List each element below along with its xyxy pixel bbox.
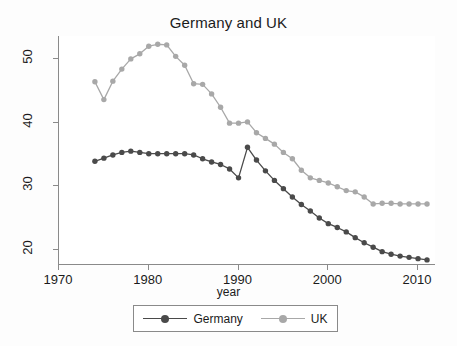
plot-area xyxy=(58,36,435,265)
data-point xyxy=(209,91,214,96)
data-point xyxy=(281,150,286,155)
data-point xyxy=(254,130,259,135)
y-tick-mark xyxy=(53,122,58,123)
data-point xyxy=(326,180,331,185)
data-point xyxy=(182,63,187,68)
data-point xyxy=(415,201,420,206)
data-point xyxy=(137,51,142,56)
data-point xyxy=(335,184,340,189)
data-point xyxy=(200,156,205,161)
data-point xyxy=(236,175,241,180)
data-point xyxy=(101,155,106,160)
chart-title: Germany and UK xyxy=(0,14,457,31)
data-point xyxy=(344,188,349,193)
data-point xyxy=(146,151,151,156)
series-layer xyxy=(59,36,436,265)
x-tick-mark xyxy=(417,265,418,270)
data-point xyxy=(308,175,313,180)
data-point xyxy=(317,215,322,220)
data-point xyxy=(245,119,250,124)
data-point xyxy=(218,105,223,110)
data-point xyxy=(92,159,97,164)
data-point xyxy=(137,150,142,155)
legend-label-germany: Germany xyxy=(193,312,242,326)
y-tick-label: 50 xyxy=(20,40,35,74)
data-point xyxy=(424,201,429,206)
data-point xyxy=(424,257,429,262)
data-point xyxy=(290,156,295,161)
data-point xyxy=(92,79,97,84)
data-point xyxy=(397,201,402,206)
data-point xyxy=(299,168,304,173)
data-point xyxy=(209,159,214,164)
y-tick-label: 20 xyxy=(20,231,35,265)
data-point xyxy=(353,235,358,240)
legend-swatch-uk xyxy=(261,313,305,325)
data-point xyxy=(263,136,268,141)
data-point xyxy=(370,244,375,249)
data-point xyxy=(155,151,160,156)
x-tick-mark xyxy=(148,265,149,270)
data-point xyxy=(379,249,384,254)
x-tick-mark xyxy=(58,265,59,270)
data-point xyxy=(119,66,124,71)
data-point xyxy=(388,251,393,256)
data-point xyxy=(173,54,178,59)
data-point xyxy=(191,81,196,86)
data-point xyxy=(245,145,250,150)
y-tick-label: 30 xyxy=(20,167,35,201)
x-axis-title: year xyxy=(0,285,457,299)
data-point xyxy=(155,42,160,47)
data-point xyxy=(370,201,375,206)
y-tick-label: 40 xyxy=(20,103,35,137)
x-tick-mark xyxy=(327,265,328,270)
data-point xyxy=(281,186,286,191)
data-point xyxy=(110,152,115,157)
data-point xyxy=(236,120,241,125)
data-point xyxy=(128,56,133,61)
data-point xyxy=(164,151,169,156)
data-point xyxy=(361,194,366,199)
data-point xyxy=(254,157,259,162)
y-tick-mark xyxy=(53,185,58,186)
data-point xyxy=(101,97,106,102)
data-point xyxy=(379,201,384,206)
data-point xyxy=(146,43,151,48)
data-point xyxy=(415,256,420,261)
y-tick-mark xyxy=(53,58,58,59)
data-point xyxy=(406,201,411,206)
data-point xyxy=(397,253,402,258)
data-point xyxy=(182,151,187,156)
x-tick-mark xyxy=(238,265,239,270)
data-point xyxy=(173,151,178,156)
legend-item-uk[interactable]: UK xyxy=(261,312,328,326)
data-point xyxy=(272,178,277,183)
data-point xyxy=(335,225,340,230)
series-uk xyxy=(92,42,430,207)
data-point xyxy=(388,201,393,206)
data-point xyxy=(344,229,349,234)
data-point xyxy=(326,221,331,226)
legend-item-germany[interactable]: Germany xyxy=(143,312,242,326)
data-point xyxy=(200,82,205,87)
data-point xyxy=(227,166,232,171)
data-point xyxy=(218,162,223,167)
data-point xyxy=(406,255,411,260)
data-point xyxy=(308,208,313,213)
data-point xyxy=(263,168,268,173)
data-point xyxy=(272,141,277,146)
data-point xyxy=(119,150,124,155)
data-point xyxy=(353,189,358,194)
data-point xyxy=(191,152,196,157)
data-point xyxy=(317,178,322,183)
data-point xyxy=(227,120,232,125)
legend: Germany UK xyxy=(133,305,338,332)
chart-container: Germany and UK 20304050 1970198019902000… xyxy=(0,0,457,346)
data-point xyxy=(128,148,133,153)
data-point xyxy=(361,240,366,245)
legend-swatch-germany xyxy=(143,313,187,325)
data-point xyxy=(299,202,304,207)
data-point xyxy=(164,42,169,47)
data-point xyxy=(110,78,115,83)
y-tick-mark xyxy=(53,249,58,250)
